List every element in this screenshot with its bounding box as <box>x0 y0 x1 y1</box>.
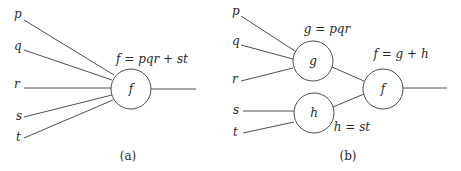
input-t-label: t <box>16 130 21 144</box>
edge-g-f <box>332 67 364 81</box>
input-q-label: q <box>232 34 240 48</box>
equation-a: f = pqr + st <box>115 52 188 66</box>
edge-p-f <box>24 20 114 75</box>
edge-t-h <box>243 122 294 133</box>
edge-q-g <box>241 45 293 59</box>
equation-h: h = st <box>334 120 371 134</box>
input-r-label: r <box>232 72 239 86</box>
input-p-label: p <box>14 7 22 21</box>
input-s-label: s <box>16 109 22 123</box>
caption-b: (b) <box>339 149 356 163</box>
node-h-label: h <box>310 106 318 120</box>
equation-g: g = pqr <box>304 22 352 36</box>
input-s-label: s <box>233 103 239 117</box>
input-q-label: q <box>14 39 22 53</box>
input-r-label: r <box>14 77 21 91</box>
caption-a: (a) <box>120 149 137 163</box>
edge-h-f <box>333 94 364 107</box>
diagram-a: f p q r s t f = pqr + st (a) <box>14 7 196 163</box>
edge-q-f <box>24 50 112 80</box>
equation-f: f = g + h <box>372 47 428 61</box>
diagram-b: g h f p q r s t g = pqr f = g + h h = st… <box>232 4 447 163</box>
input-p-label: p <box>232 4 240 18</box>
node-g-label: g <box>309 54 317 68</box>
diagram-canvas: f p q r s t f = pqr + st (a) g h f p q <box>0 0 461 171</box>
edge-p-g <box>241 16 295 51</box>
input-t-label: t <box>233 125 238 139</box>
edge-r-g <box>241 68 293 81</box>
